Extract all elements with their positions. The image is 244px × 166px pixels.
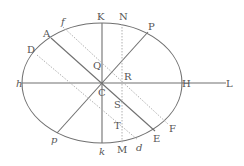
label-p: p bbox=[51, 134, 58, 145]
label-f: f bbox=[60, 16, 67, 27]
label-F: F bbox=[169, 123, 176, 134]
dotted-chord-Dd bbox=[37, 55, 138, 140]
label-T: T bbox=[114, 120, 121, 131]
label-N: N bbox=[119, 11, 128, 22]
label-Q: Q bbox=[93, 60, 101, 71]
ellipse-diagram: K N P f A D h Q R C H L S T p k M d E F bbox=[0, 0, 244, 166]
label-C: C bbox=[98, 87, 106, 98]
label-d: d bbox=[136, 142, 142, 153]
label-D: D bbox=[27, 44, 35, 55]
label-H: H bbox=[182, 78, 191, 89]
label-k: k bbox=[99, 146, 105, 157]
label-h: h bbox=[16, 78, 22, 89]
diameter-AE bbox=[51, 38, 155, 131]
label-S: S bbox=[114, 99, 121, 110]
label-M: M bbox=[117, 144, 127, 155]
label-P: P bbox=[148, 21, 155, 32]
label-L: L bbox=[226, 78, 233, 89]
label-K: K bbox=[97, 11, 105, 22]
label-A: A bbox=[42, 28, 51, 39]
label-R: R bbox=[124, 71, 132, 82]
label-E: E bbox=[153, 133, 160, 144]
